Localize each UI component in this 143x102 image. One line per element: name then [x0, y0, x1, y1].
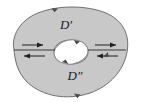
- figure-container: D′ D″: [0, 0, 143, 102]
- lower-region-label: D″: [67, 68, 83, 83]
- upper-region-label: D′: [59, 17, 72, 32]
- region-diagram: D′ D″: [0, 0, 143, 102]
